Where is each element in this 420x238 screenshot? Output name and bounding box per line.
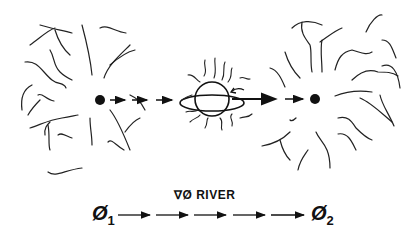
source-point <box>95 95 105 105</box>
gradient-river-diagram <box>0 0 420 238</box>
phi-1-label: Ø1 <box>92 202 115 228</box>
right-field-lines <box>262 15 400 170</box>
gradient-river-label: ∇Ø RIVER <box>174 188 235 202</box>
sphere-rays <box>182 58 252 130</box>
large-arrow-to-sink <box>232 94 275 104</box>
phi-2-label: Ø2 <box>311 202 334 228</box>
sink-point <box>310 94 320 104</box>
left-field-lines <box>22 25 145 174</box>
